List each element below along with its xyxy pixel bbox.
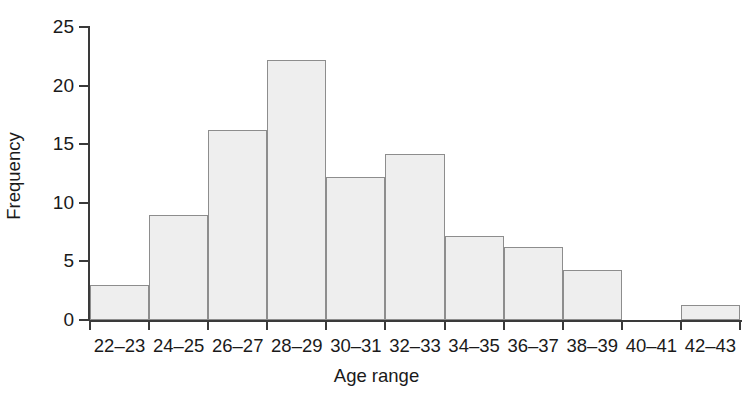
y-axis-tick — [79, 26, 89, 28]
y-axis-tick-label: 15 — [4, 134, 74, 153]
histogram-bar — [385, 154, 444, 320]
y-axis-tick-label-wrap: 20 — [0, 76, 74, 95]
y-axis-tick — [79, 260, 89, 262]
x-axis-tick — [89, 321, 91, 330]
histogram-bar — [563, 270, 622, 320]
x-axis-tick — [739, 321, 741, 330]
histogram-bar — [326, 177, 385, 320]
x-axis-tick — [444, 321, 446, 330]
x-axis-tick — [325, 321, 327, 330]
y-axis-tick — [79, 143, 89, 145]
x-axis-tick — [266, 321, 268, 330]
x-axis-tick — [148, 321, 150, 330]
y-axis-title: Frequency — [3, 76, 25, 276]
histogram-bar — [149, 215, 208, 320]
y-axis-tick-label: 0 — [4, 310, 74, 329]
histogram-bar — [90, 285, 149, 320]
histogram-bar — [208, 130, 267, 320]
histogram-bar — [504, 247, 563, 320]
y-axis-tick-label-wrap: 10 — [0, 193, 74, 212]
y-axis-tick-label-wrap: 25 — [0, 17, 74, 36]
y-axis-tick-label: 5 — [4, 251, 74, 270]
x-axis-tick — [621, 321, 623, 330]
x-axis-tick — [680, 321, 682, 330]
y-axis-tick-label: 20 — [4, 76, 74, 95]
histogram-bar — [445, 236, 504, 320]
y-axis-tick — [79, 202, 89, 204]
x-axis-tick-label: 42–43 — [676, 335, 745, 357]
plot-area — [90, 27, 740, 320]
y-axis-tick-label: 10 — [4, 193, 74, 212]
x-axis-tick — [562, 321, 564, 330]
y-axis-tick-label-wrap: 0 — [0, 310, 74, 329]
y-axis-tick-label: 25 — [4, 17, 74, 36]
x-axis-tick — [503, 321, 505, 330]
histogram-chart: Frequency 0510152025 22–2324–2526–2728–2… — [0, 0, 753, 405]
histogram-bar — [267, 60, 326, 320]
y-axis-tick — [79, 319, 89, 321]
y-axis-tick-label-wrap: 5 — [0, 251, 74, 270]
histogram-bar — [681, 305, 740, 320]
y-axis-tick — [79, 85, 89, 87]
x-axis-tick — [207, 321, 209, 330]
x-axis-title: Age range — [0, 365, 753, 387]
y-axis-tick-label-wrap: 15 — [0, 134, 74, 153]
x-axis-line — [89, 320, 742, 322]
x-axis-tick — [384, 321, 386, 330]
